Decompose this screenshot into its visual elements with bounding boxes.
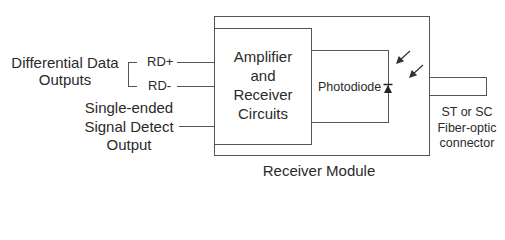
differential-line2: Outputs xyxy=(6,71,124,88)
rd-minus-label: RD- xyxy=(148,79,171,94)
differential-data-label: Differential Data Outputs xyxy=(6,54,124,89)
light-arrow-icon xyxy=(410,65,423,77)
signal-detect-label: Single-ended Signal Detect Output xyxy=(82,99,176,155)
amplifier-label: Amplifier and Receiver Circuits xyxy=(214,47,312,123)
connector-line3: connector xyxy=(432,136,502,152)
signal-line2: Signal Detect xyxy=(82,118,176,137)
amplifier-line4: Circuits xyxy=(214,104,312,123)
connector-line2: Fiber-optic xyxy=(432,121,502,137)
amplifier-line3: Receiver xyxy=(214,85,312,104)
connector-label: ST or SC Fiber-optic connector xyxy=(432,105,502,152)
signal-line1: Single-ended xyxy=(82,99,176,118)
amplifier-line2: and xyxy=(214,66,312,85)
differential-line1: Differential Data xyxy=(6,54,124,71)
receiver-module-label: Receiver Module xyxy=(254,162,384,179)
light-arrow-icon xyxy=(397,51,410,63)
signal-line3: Output xyxy=(82,136,176,155)
photodiode-icon xyxy=(384,85,393,94)
connector-line1: ST or SC xyxy=(432,105,502,121)
photodiode-label: Photodiode xyxy=(318,80,381,94)
amplifier-line1: Amplifier xyxy=(214,47,312,66)
rd-plus-label: RD+ xyxy=(147,55,173,70)
